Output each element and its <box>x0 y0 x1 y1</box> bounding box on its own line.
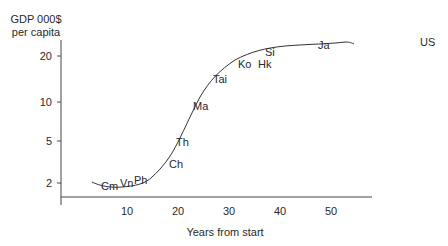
label-ma: Ma <box>193 100 209 112</box>
y-ticks: 20 10 5 2 <box>40 50 61 189</box>
x-tick-label-30: 30 <box>223 205 235 217</box>
y-axis-label-line-2: per capita <box>12 26 61 38</box>
y-tick-label-5: 5 <box>46 135 52 147</box>
label-hk: Hk <box>258 58 272 70</box>
y-tick-label-20: 20 <box>40 50 52 62</box>
chart-canvas: GDP 000$ per capita 20 10 5 2 10 20 30 4… <box>0 0 448 246</box>
label-th: Th <box>176 136 189 148</box>
country-labels: Cm Vn Ph Ch Th Ma Tai Ko Hk Si Ja US <box>101 36 435 192</box>
label-tai: Tai <box>213 73 227 85</box>
x-axis-label: Years from start <box>186 226 263 238</box>
x-ticks: 10 20 30 40 50 <box>121 205 337 217</box>
x-tick-label-40: 40 <box>274 205 286 217</box>
x-tick-label-10: 10 <box>121 205 133 217</box>
label-vn: Vn <box>120 177 133 189</box>
label-us: US <box>420 36 435 48</box>
y-tick-label-10: 10 <box>40 96 52 108</box>
x-tick-label-20: 20 <box>172 205 184 217</box>
x-tick-label-50: 50 <box>325 205 337 217</box>
y-axis-label-line-1: GDP 000$ <box>10 13 61 25</box>
label-si: Si <box>265 46 275 58</box>
label-cm: Cm <box>101 180 118 192</box>
label-ja: Ja <box>318 39 331 51</box>
label-ch: Ch <box>169 158 183 170</box>
label-ko: Ko <box>238 58 251 70</box>
development-curve <box>92 42 354 187</box>
label-ph: Ph <box>134 174 147 186</box>
y-tick-label-2: 2 <box>46 177 52 189</box>
